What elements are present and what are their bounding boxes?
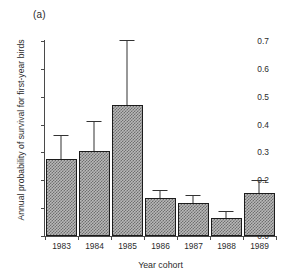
bar-group — [112, 41, 143, 236]
error-bar-cap-1989 — [252, 180, 267, 181]
bar-1985 — [112, 105, 143, 236]
bar-1988 — [211, 218, 242, 236]
bar-1989 — [244, 193, 275, 236]
x-axis-tick-label-1985: 1985 — [118, 241, 137, 251]
bar-group — [46, 41, 77, 236]
x-axis-tick — [177, 236, 178, 240]
bar-1986 — [145, 198, 176, 236]
x-axis-tick-label-1988: 1988 — [217, 241, 236, 251]
x-axis-tick — [210, 236, 211, 240]
error-bar-cap-1985 — [120, 40, 135, 41]
x-axis-title: Year cohort — [45, 260, 276, 270]
x-axis-tick — [111, 236, 112, 240]
x-axis-tick-label-1986: 1986 — [151, 241, 170, 251]
error-bar-stem-1985 — [127, 41, 128, 105]
figure-panel-a: (a) Annual probability of survival for f… — [0, 0, 283, 279]
x-axis-tick-label-1987: 1987 — [184, 241, 203, 251]
bar-group — [244, 41, 275, 236]
error-bar-stem-1983 — [61, 136, 62, 158]
panel-label: (a) — [33, 9, 46, 20]
bar-1987 — [178, 203, 209, 236]
bar-group — [79, 41, 110, 236]
y-axis-title: Annual probability of survival for first… — [16, 28, 26, 233]
bar-group — [145, 41, 176, 236]
error-bar-cap-1988 — [219, 211, 234, 212]
x-axis-tick — [276, 236, 277, 240]
y-axis-tick — [41, 125, 45, 126]
x-axis-tick-label-1984: 1984 — [85, 241, 104, 251]
error-bar-stem-1984 — [94, 122, 95, 151]
bar-group — [178, 41, 209, 236]
error-bar-cap-1987 — [186, 195, 201, 196]
bar-1983 — [46, 159, 77, 236]
error-bar-cap-1983 — [54, 135, 69, 136]
error-bar-stem-1988 — [226, 212, 227, 218]
error-bar-cap-1984 — [87, 121, 102, 122]
x-axis-tick-label-1983: 1983 — [52, 241, 71, 251]
y-axis-tick — [41, 97, 45, 98]
error-bar-stem-1987 — [193, 196, 194, 202]
y-axis-tick — [41, 180, 45, 181]
error-bar-stem-1986 — [160, 191, 161, 198]
error-bar-cap-1986 — [153, 190, 168, 191]
x-axis-tick — [78, 236, 79, 240]
x-axis-tick-label-1989: 1989 — [250, 241, 269, 251]
bar-1984 — [79, 151, 110, 236]
y-axis-tick — [41, 41, 45, 42]
x-axis-tick — [243, 236, 244, 240]
plot-area: 0.00.10.20.30.40.50.60.7 — [45, 41, 276, 236]
y-axis-tick — [41, 208, 45, 209]
y-axis-tick — [41, 69, 45, 70]
x-axis-tick — [144, 236, 145, 240]
error-bar-stem-1989 — [259, 181, 260, 194]
x-axis-tick — [45, 236, 46, 240]
bar-group — [211, 41, 242, 236]
y-axis-tick — [41, 152, 45, 153]
